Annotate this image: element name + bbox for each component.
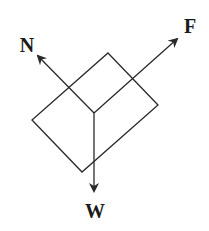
diagram-canvas: N F W: [0, 0, 209, 231]
free-body-diagram: N F W: [0, 0, 209, 231]
label-n: N: [20, 34, 35, 56]
force-arrow-n: [38, 56, 94, 113]
label-f: F: [184, 15, 196, 37]
force-arrow-f: [94, 39, 177, 113]
label-w: W: [85, 200, 105, 222]
